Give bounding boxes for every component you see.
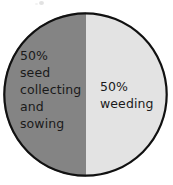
pie-slice-seed-collecting-and-sowing <box>0 0 86 185</box>
pie-chart-graphic <box>0 0 173 185</box>
pie-slice-weeding <box>86 0 173 185</box>
pie-chart: 50% seed collecting and sowing 50% weedi… <box>0 0 173 185</box>
